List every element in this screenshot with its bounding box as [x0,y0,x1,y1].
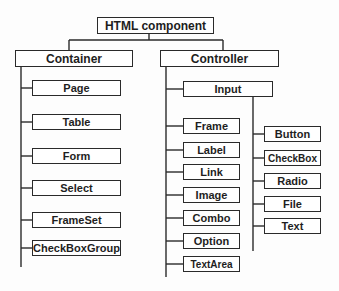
node-option: Option [183,233,240,249]
node-checkbox: CheckBox [264,150,321,166]
node-text: Text [264,218,321,234]
node-button: Button [264,126,321,142]
node-textarea: TextArea [183,256,240,272]
tree-diagram: HTML component Container Controller Page… [0,0,339,291]
node-checkboxgroup: CheckBoxGroup [32,240,121,256]
node-image: Image [183,187,240,203]
node-input: Input [183,81,273,97]
node-container: Container [15,50,133,67]
node-page: Page [32,80,121,96]
node-controller: Controller [160,50,279,67]
node-table: Table [32,114,121,130]
node-label: Label [183,142,240,158]
node-radio: Radio [264,173,321,189]
node-link: Link [183,164,240,180]
node-form: Form [32,148,121,164]
node-file: File [264,196,321,212]
node-combo: Combo [183,210,240,226]
node-frame: Frame [183,118,240,134]
node-html-component: HTML component [97,17,214,34]
node-frameset: FrameSet [32,212,121,228]
node-select: Select [32,180,121,196]
